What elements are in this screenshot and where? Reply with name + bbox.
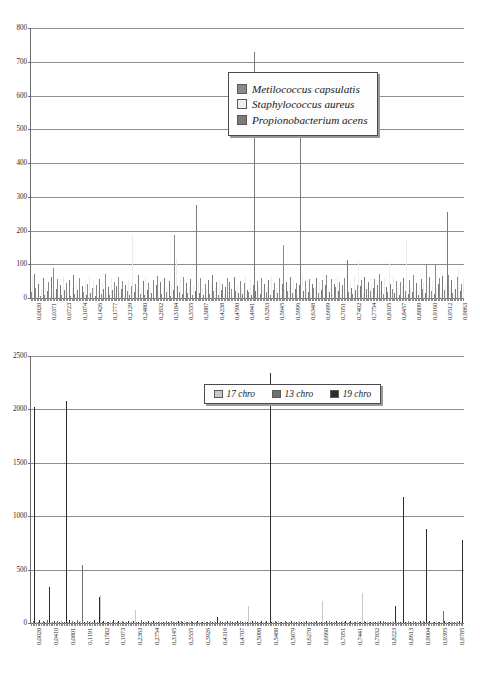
x-tick-label: 0,8223	[390, 628, 397, 645]
y-tick-label: 500	[17, 566, 27, 574]
x-tick-label: 0,0801	[69, 628, 76, 645]
y-tick-label: 400	[17, 159, 27, 167]
bar	[322, 601, 323, 623]
x-tick-label: 0,4590	[233, 303, 240, 320]
y-tick-label: 600	[17, 92, 27, 100]
x-tick-label: 0,4707	[238, 628, 245, 645]
x-tick-label: 0,6660	[322, 628, 329, 645]
legend-swatch-icon	[330, 390, 339, 399]
y-tick-label: 0	[24, 294, 28, 302]
bar	[34, 407, 35, 623]
y-tick-label: 0	[24, 619, 28, 627]
legend-item-label: Metilococcus capsulatis	[252, 83, 360, 95]
legend-swatch-icon	[237, 115, 247, 125]
x-tick-label: 0,4941	[248, 303, 255, 320]
legend-swatch-icon	[237, 84, 247, 94]
y-tick-label: 300	[17, 193, 27, 201]
x-tick-label: 0,5996	[294, 303, 301, 320]
x-tick-label: 0,7051	[339, 628, 346, 645]
bar	[362, 593, 363, 623]
x-tick-label: 0,9512	[446, 303, 453, 320]
x-tick-label: 0,9395	[441, 628, 448, 645]
bar	[82, 565, 83, 623]
bar	[66, 401, 67, 623]
x-tick-label: 0,5293	[263, 303, 270, 320]
x-tick-label: 0,7754	[370, 303, 377, 320]
legend-item-label: 13 chro	[285, 389, 314, 399]
legend-item: Staphylococcus aureus	[237, 98, 367, 110]
bar	[426, 529, 427, 623]
x-tick-label: 0,4238	[218, 303, 225, 320]
x-tick-label: 0,3145	[170, 628, 177, 645]
x-tick-label: 0,9004	[424, 628, 431, 645]
x-tick-label: 0,5098	[255, 628, 262, 645]
legend-item: 13 chro	[272, 389, 313, 399]
x-tick-label: 0,3535	[187, 628, 194, 645]
legend-item-label: Propionobacterium acens	[252, 114, 367, 126]
x-tick-label: 0,7051	[339, 303, 346, 320]
x-tick-label: 0,2754	[153, 628, 160, 645]
x-tick-label: 0,9160	[431, 303, 438, 320]
legend-swatch-icon	[272, 390, 281, 399]
chart-1-plot-wrap: 0100200300400500600700800 0,00200,03710,…	[30, 28, 464, 299]
bar	[463, 279, 464, 298]
chart-1-legend: Metilococcus capsulatis Staphylococcus a…	[228, 72, 378, 136]
x-tick-label: 0,5488	[272, 628, 279, 645]
x-tick-label: 0,9863	[461, 303, 468, 320]
y-tick-label: 1000	[13, 512, 27, 520]
x-tick-label: 0,1973	[119, 628, 126, 645]
y-tick-label: 1500	[13, 459, 27, 467]
x-tick-label: 0,2480	[141, 303, 148, 320]
x-tick-label: 0,6699	[324, 303, 331, 320]
x-tick-label: 0,2363	[136, 628, 143, 645]
x-tick-label: 0,0020	[35, 303, 42, 320]
x-tick-label: 0,2129	[126, 303, 133, 320]
x-tick-label: 0,1074	[81, 303, 88, 320]
legend-item: 19 chro	[330, 389, 371, 399]
x-tick-label: 0,0020	[35, 628, 42, 645]
legend-item: Propionobacterium acens	[237, 114, 367, 126]
bar	[403, 497, 404, 623]
legend-swatch-icon	[237, 99, 247, 109]
chart-1-block: 0100200300400500600700800 0,00200,03710,…	[0, 18, 480, 338]
legend-item: 17 chro	[214, 389, 255, 399]
x-tick-label: 0,5879	[289, 628, 296, 645]
x-tick-mark	[463, 298, 464, 301]
figure-page: 0100200300400500600700800 0,00200,03710,…	[0, 0, 480, 673]
x-tick-label: 0,0410	[52, 628, 59, 645]
chart-2-block: 05001000150020002500 0,00200,04100,08010…	[0, 348, 480, 673]
y-tick-label: 2500	[13, 352, 27, 360]
x-tick-label: 0,7441	[356, 628, 363, 645]
y-tick-label: 800	[17, 24, 27, 32]
legend-item: Metilococcus capsulatis	[237, 83, 367, 95]
legend-item-label: Staphylococcus aureus	[252, 98, 354, 110]
x-tick-label: 0,5645	[278, 303, 285, 320]
legend-item-label: 17 chro	[227, 389, 256, 399]
bar	[248, 606, 249, 623]
y-tick-label: 100	[17, 260, 27, 268]
x-tick-label: 0,8809	[415, 303, 422, 320]
y-tick-label: 700	[17, 58, 27, 66]
x-tick-label: 0,1582	[103, 628, 110, 645]
chart-2-x-ticks	[31, 623, 464, 629]
x-tick-label: 0,0371	[50, 303, 57, 320]
x-tick-label: 0,7402	[355, 303, 362, 320]
x-tick-label: 0,8457	[400, 303, 407, 320]
x-tick-label: 0,0723	[65, 303, 72, 320]
bar	[406, 240, 407, 298]
x-tick-label: 0,6348	[309, 303, 316, 320]
legend-swatch-icon	[214, 390, 223, 399]
y-tick-label: 200	[17, 227, 27, 235]
x-tick-label: 0,3926	[204, 628, 211, 645]
x-tick-label: 0,8105	[385, 303, 392, 320]
chart-2-legend: 17 chro 13 chro 19 chro	[204, 384, 381, 404]
x-tick-label: 0,7832	[373, 628, 380, 645]
x-tick-label: 0,3184	[172, 303, 179, 320]
bar	[270, 373, 271, 623]
chart-1-plot-area: 0100200300400500600700800 0,00200,03710,…	[30, 28, 464, 299]
x-tick-label: 0,9785	[458, 628, 465, 645]
x-tick-label: 0,1426	[96, 303, 103, 320]
bar	[100, 595, 101, 623]
x-tick-label: 0,6270	[305, 628, 312, 645]
bar	[462, 540, 463, 623]
